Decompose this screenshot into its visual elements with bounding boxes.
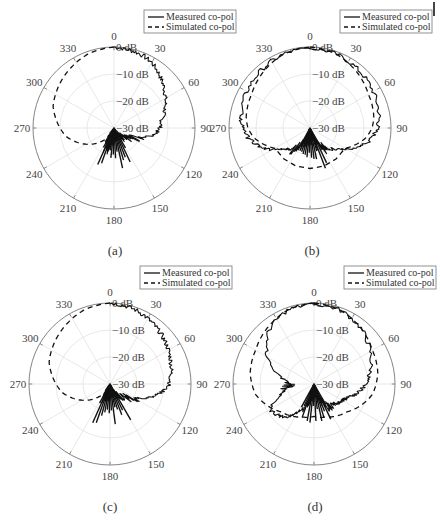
angle-tick-label: 180 bbox=[106, 214, 123, 226]
polar-plot-a: 03060901201501802102402703003300 dB−10 d… bbox=[14, 10, 236, 226]
angle-tick-label: 120 bbox=[381, 168, 398, 180]
angle-tick-label: 120 bbox=[385, 424, 402, 436]
radial-tick-label: −30 dB bbox=[312, 122, 345, 134]
angle-tick-label: 120 bbox=[185, 168, 202, 180]
angle-tick-label: 150 bbox=[348, 202, 365, 214]
angle-tick-label: 60 bbox=[388, 332, 400, 344]
legend: Measured co-polSimulated co-pol bbox=[340, 10, 432, 33]
angle-tick-label: 150 bbox=[148, 458, 165, 470]
spoke bbox=[40, 344, 110, 385]
radial-tick-label: −20 dB bbox=[116, 95, 149, 107]
spoke bbox=[44, 88, 114, 129]
angle-tick-label: 240 bbox=[222, 168, 239, 180]
figure: 03060901201501802102402703003300 dB−10 d… bbox=[0, 0, 440, 522]
simulated-co-pol-curve bbox=[49, 303, 110, 400]
legend: Measured co-polSimulated co-pol bbox=[140, 266, 232, 289]
angle-tick-label: 300 bbox=[22, 332, 39, 344]
polar-plot-b: 03060901201501802102402703003300 dB−10 d… bbox=[210, 10, 432, 226]
angle-tick-label: 150 bbox=[152, 202, 169, 214]
angle-tick-label: 180 bbox=[102, 470, 119, 482]
angle-tick-label: 330 bbox=[60, 42, 77, 54]
angle-tick-label: 210 bbox=[256, 202, 273, 214]
angle-tick-label: 60 bbox=[184, 332, 196, 344]
radial-tick-label: 0 dB bbox=[116, 41, 137, 53]
angle-tick-label: 270 bbox=[10, 378, 27, 390]
page-edge-mark bbox=[433, 2, 435, 16]
radial-tick-label: −20 dB bbox=[316, 351, 349, 363]
legend-simulated-label: Simulated co-pol bbox=[362, 21, 431, 32]
polar-plot-d: 03060901201501802102402703003300 dB−10 d… bbox=[214, 266, 436, 482]
angle-tick-label: 300 bbox=[226, 332, 243, 344]
angle-tick-label: 270 bbox=[14, 122, 31, 134]
angle-tick-label: 210 bbox=[56, 458, 73, 470]
radial-tick-label: −10 dB bbox=[312, 68, 345, 80]
angle-tick-label: 180 bbox=[306, 470, 323, 482]
angle-tick-label: 30 bbox=[151, 298, 163, 310]
caption-b: (b) bbox=[304, 243, 319, 259]
angle-tick-label: 90 bbox=[401, 378, 413, 390]
angle-tick-label: 90 bbox=[397, 122, 409, 134]
angle-tick-label: 240 bbox=[226, 424, 243, 436]
radial-tick-label: −30 dB bbox=[112, 378, 145, 390]
legend: Measured co-polSimulated co-pol bbox=[144, 10, 236, 33]
simulated-co-pol-curve bbox=[53, 47, 114, 144]
angle-tick-label: 120 bbox=[181, 424, 198, 436]
angle-tick-label: 180 bbox=[302, 214, 319, 226]
angle-tick-label: 210 bbox=[60, 202, 77, 214]
caption-d: (d) bbox=[307, 499, 322, 515]
polar-plots: 03060901201501802102402703003300 dB−10 d… bbox=[0, 0, 440, 522]
angle-tick-label: 270 bbox=[214, 378, 231, 390]
spoke bbox=[240, 88, 310, 129]
legend: Measured co-polSimulated co-pol bbox=[344, 266, 436, 289]
angle-tick-label: 240 bbox=[26, 168, 43, 180]
radial-tick-label: −30 dB bbox=[316, 378, 349, 390]
radial-tick-label: −20 dB bbox=[312, 95, 345, 107]
radial-tick-label: −10 dB bbox=[316, 324, 349, 336]
radial-tick-label: −20 dB bbox=[112, 351, 145, 363]
caption-a: (a) bbox=[108, 243, 122, 259]
spoke bbox=[114, 128, 184, 169]
angle-tick-label: 300 bbox=[222, 76, 239, 88]
angle-tick-label: 30 bbox=[155, 42, 167, 54]
legend-simulated-label: Simulated co-pol bbox=[366, 277, 435, 288]
spoke bbox=[110, 384, 180, 425]
angle-tick-label: 330 bbox=[256, 42, 273, 54]
angle-tick-label: 60 bbox=[188, 76, 200, 88]
angle-tick-label: 30 bbox=[355, 298, 367, 310]
spoke bbox=[74, 58, 115, 128]
polar-plot-c: 03060901201501802102402703003300 dB−10 d… bbox=[10, 266, 232, 482]
legend-simulated-label: Simulated co-pol bbox=[162, 277, 231, 288]
angle-tick-label: 30 bbox=[351, 42, 363, 54]
angle-tick-label: 330 bbox=[260, 298, 277, 310]
caption-c: (c) bbox=[103, 499, 117, 515]
spoke bbox=[44, 128, 114, 169]
spoke bbox=[270, 58, 311, 128]
radial-tick-label: −10 dB bbox=[116, 68, 149, 80]
spoke bbox=[40, 384, 110, 425]
radial-tick-label: −10 dB bbox=[112, 324, 145, 336]
angle-tick-label: 90 bbox=[197, 378, 209, 390]
legend-simulated-label: Simulated co-pol bbox=[166, 21, 235, 32]
angle-tick-label: 60 bbox=[384, 76, 396, 88]
angle-tick-label: 240 bbox=[22, 424, 39, 436]
radial-tick-label: −30 dB bbox=[116, 122, 149, 134]
spoke bbox=[244, 344, 314, 385]
angle-tick-label: 330 bbox=[56, 298, 73, 310]
angle-tick-label: 210 bbox=[260, 458, 277, 470]
spoke bbox=[70, 314, 111, 384]
angle-tick-label: 300 bbox=[26, 76, 43, 88]
angle-tick-label: 150 bbox=[352, 458, 369, 470]
angle-tick-label: 270 bbox=[210, 122, 227, 134]
spoke bbox=[274, 314, 315, 384]
